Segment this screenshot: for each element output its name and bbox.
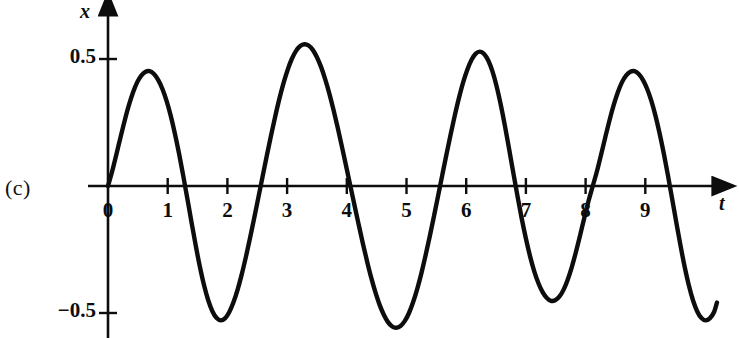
x-tick-label: 7 [501,198,551,223]
y-axis-label: x [80,0,90,23]
x-tick-label: 8 [561,198,611,223]
x-tick-label: 2 [202,198,252,223]
plot-area [0,0,739,338]
x-tick-label: 3 [262,198,312,223]
y-tick-label: 0.5 [0,44,96,69]
y-axis-group [99,14,117,338]
figure-panel-c: (c) x t 0123456789 0.5−0.5 [0,0,739,338]
x-tick-label: 5 [382,198,432,223]
x-tick-label: 4 [322,198,372,223]
x-axis-label: t [719,192,725,215]
panel-label: (c) [5,175,31,201]
x-tick-label: 1 [143,198,193,223]
y-tick-label: −0.5 [0,298,96,323]
x-tick-label: 6 [441,198,491,223]
x-tick-label: 9 [620,198,670,223]
x-tick-label: 0 [83,198,133,223]
